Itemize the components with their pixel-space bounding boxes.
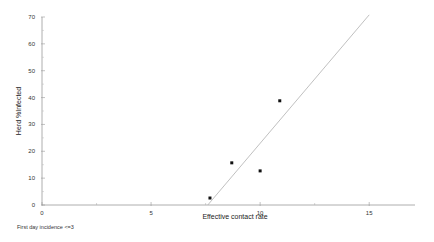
y-axis-title: Herd %Infected [15,87,22,135]
y-tick-label: 50 [28,68,35,74]
x-axis-title: Effective contact rate [202,213,267,220]
y-tick-label: 40 [28,95,35,101]
y-tick-label: 30 [28,121,35,127]
footnote: First day incidence <=3 [17,224,74,230]
x-tick-label: 5 [149,210,153,216]
data-point [278,99,281,102]
y-tick-label: 0 [32,202,36,208]
data-point [208,197,211,200]
axes [42,17,415,205]
y-tick-label: 20 [28,148,35,154]
data-point [230,161,233,164]
y-tick-label: 60 [28,41,35,47]
y-ticks: 010203040506070 [28,14,45,208]
fitted-line [208,15,369,205]
scatter-chart: 051015 010203040506070 Effective contact… [0,0,434,242]
x-tick-label: 15 [366,210,373,216]
data-point [259,169,262,172]
x-tick-label: 0 [40,210,44,216]
y-tick-label: 70 [28,14,35,20]
y-tick-label: 10 [28,175,35,181]
series-points [208,99,281,199]
series-lines [208,15,369,205]
